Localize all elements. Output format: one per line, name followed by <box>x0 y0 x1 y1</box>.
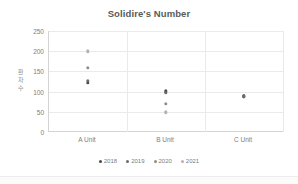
data-point <box>164 102 167 105</box>
card-bottom-edge <box>0 176 298 184</box>
y-axis-tick-label: 200 <box>4 48 44 55</box>
horizontal-gridline <box>49 71 283 72</box>
horizontal-gridline <box>49 31 283 32</box>
legend-marker-icon <box>126 160 129 163</box>
vertical-gridline <box>127 31 128 132</box>
legend-item[interactable]: 2021 <box>181 158 199 164</box>
data-point <box>164 91 167 94</box>
legend-item[interactable]: 2018 <box>99 158 117 164</box>
data-point <box>86 49 89 52</box>
x-axis-tick-label: A Unit <box>48 136 126 143</box>
y-axis-tick-label: 150 <box>4 68 44 75</box>
legend-marker-icon <box>99 160 102 163</box>
legend-marker-icon <box>154 160 157 163</box>
y-axis-tick-label: 100 <box>4 88 44 95</box>
x-axis-tick-label: C Unit <box>204 136 282 143</box>
plot-right-edge <box>283 31 284 132</box>
legend-item[interactable]: 2019 <box>126 158 144 164</box>
horizontal-gridline <box>49 51 283 52</box>
y-axis-tick-label: 50 <box>4 108 44 115</box>
legend-label: 2018 <box>104 158 117 164</box>
x-axis-line <box>49 131 283 132</box>
x-axis-tick-labels: A UnitB UnitC Unit <box>48 136 282 148</box>
legend-item[interactable]: 2020 <box>154 158 172 164</box>
legend-marker-icon <box>181 160 184 163</box>
data-point <box>164 111 167 114</box>
y-axis-tick-label: 250 <box>4 28 44 35</box>
vertical-gridline <box>205 31 206 132</box>
legend-label: 2021 <box>186 158 199 164</box>
chart-card: Solidire's Number 환 자 수 050100150200250 … <box>0 0 298 184</box>
y-axis-tick-label: 0 <box>4 129 44 136</box>
data-point <box>242 95 245 98</box>
legend-label: 2020 <box>159 158 172 164</box>
legend-label: 2019 <box>131 158 144 164</box>
x-axis-tick-label: B Unit <box>126 136 204 143</box>
data-point <box>86 66 89 69</box>
plot-area <box>48 31 282 132</box>
chart-legend: 2018201920202021 <box>0 158 298 164</box>
chart-title: Solidire's Number <box>0 8 298 19</box>
y-axis-tick-labels: 050100150200250 <box>0 31 44 132</box>
